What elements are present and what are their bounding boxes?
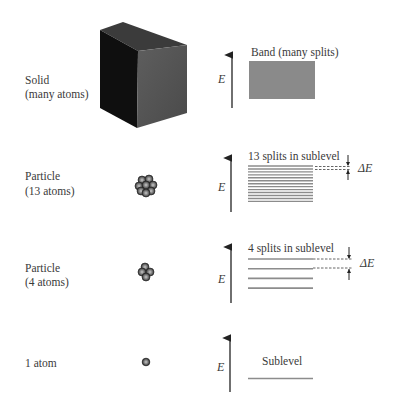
splits-label: 13 splits in sublevel: [248, 150, 340, 163]
energy-levels-4: [248, 259, 313, 288]
delta-e-label: ΔE: [357, 161, 373, 175]
row-particle-4: Particle (4 atoms) E 4 splits in subleve…: [25, 242, 375, 303]
energy-band: [249, 61, 315, 99]
row-single-atom: 1 atom E Sublevel: [25, 338, 313, 392]
delta-e-label: ΔE: [359, 256, 375, 270]
row-label-line1: 1 atom: [25, 357, 57, 369]
sublevel-label: Sublevel: [262, 355, 302, 367]
cluster-4-atoms-icon: [138, 263, 154, 281]
single-atom-icon: [142, 358, 150, 366]
row-label-line2: (4 atoms): [25, 276, 69, 289]
row-label-line1: Solid: [25, 74, 50, 86]
row-label-line2: (13 atoms): [25, 185, 75, 198]
row-solid: Solid (many atoms) E Band (many splits): [25, 22, 339, 128]
energy-levels-13: [248, 166, 313, 201]
energy-axis-label: E: [217, 72, 226, 86]
energy-level-diagram: Solid (many atoms) E Band (many splits) …: [0, 0, 393, 411]
energy-axis-label: E: [217, 180, 226, 194]
row-label-line2: (many atoms): [25, 88, 89, 101]
energy-axis-label: E: [216, 360, 225, 374]
band-label: Band (many splits): [251, 46, 339, 59]
energy-axis-label: E: [217, 272, 226, 286]
cluster-13-atoms-icon: [135, 175, 157, 197]
row-label-line1: Particle: [25, 170, 60, 182]
row-label-line1: Particle: [25, 262, 60, 274]
solid-cube-icon: [100, 22, 187, 128]
splits-label: 4 splits in sublevel: [248, 242, 334, 255]
row-particle-13: Particle (13 atoms) E 13 splits in suble…: [25, 150, 373, 212]
